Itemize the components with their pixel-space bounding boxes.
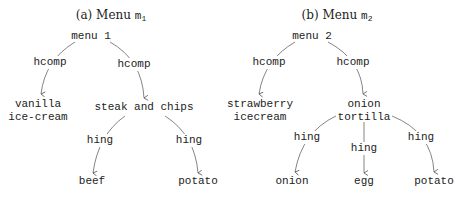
edge-label-hing: hing <box>175 134 203 147</box>
edge-label-hing: hing <box>293 131 321 144</box>
edge-label-hcomp: hcomp <box>32 56 67 69</box>
node-onion: onion <box>275 175 308 188</box>
edge-label-hing: hing <box>407 131 435 144</box>
node-label-line1: vanilla <box>8 98 67 111</box>
node-potato: potato <box>178 175 218 188</box>
node-label-line2: ice-cream <box>8 111 67 124</box>
edge-label-hcomp: hcomp <box>116 58 151 71</box>
edge-tortilla-potato <box>392 116 434 172</box>
node-egg: egg <box>354 175 374 188</box>
node-label-line1: strawberry <box>227 98 293 111</box>
caption-menu-1: (a) Menu m1 <box>76 8 146 23</box>
node-vanilla-ice-cream: vanilla ice-cream <box>8 98 67 124</box>
edge-label-hcomp: hcomp <box>335 56 370 69</box>
node-strawberry-icecream: strawberry icecream <box>227 98 293 124</box>
node-label-line2: icecream <box>227 111 293 124</box>
caption-text: (b) Menu <box>302 8 358 22</box>
edge-label-hcomp: hcomp <box>251 56 286 69</box>
node-label-line2: tortilla <box>338 111 391 124</box>
node-label-line1: onion <box>338 98 391 111</box>
node-menu-1: menu 1 <box>71 30 111 43</box>
caption-var: m1 <box>135 10 146 22</box>
edge-tortilla-onion <box>295 116 336 172</box>
edge-label-hing: hing <box>86 134 114 147</box>
caption-var: m2 <box>361 10 372 22</box>
node-potato: potato <box>414 175 454 188</box>
node-steak-and-chips: steak and chips <box>94 101 193 114</box>
node-menu-2: menu 2 <box>292 30 332 43</box>
node-onion-tortilla: onion tortilla <box>338 98 391 124</box>
node-beef: beef <box>79 175 105 188</box>
caption-text: (a) Menu <box>76 8 131 22</box>
edge-label-hing: hing <box>350 142 378 155</box>
caption-menu-2: (b) Menu m2 <box>302 8 373 23</box>
diagram-canvas: (a) Menu m1 menu 1 hcomp hcomp vanilla i… <box>0 0 468 199</box>
